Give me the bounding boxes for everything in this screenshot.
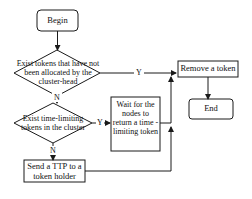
remove-token-label: Remove a token	[178, 64, 238, 74]
decision2-label: Exist time-limiting tokens in the cluste…	[16, 114, 90, 132]
wait-label: Wait for the nodes to return a time -lim…	[112, 100, 159, 136]
send-ttp-label: Send a TTP to a token holder	[25, 162, 84, 181]
edge-label-d2-yes: Y	[96, 118, 104, 127]
decision1-label: Exist tokens that have not been allocate…	[16, 59, 100, 86]
begin-label: Begin	[37, 16, 78, 26]
end-label: End	[189, 104, 233, 114]
edge-label-d1-no: N	[52, 93, 62, 102]
edge-label-d1-yes: Y	[134, 68, 144, 77]
edge-label-d2-no: N	[48, 146, 58, 155]
